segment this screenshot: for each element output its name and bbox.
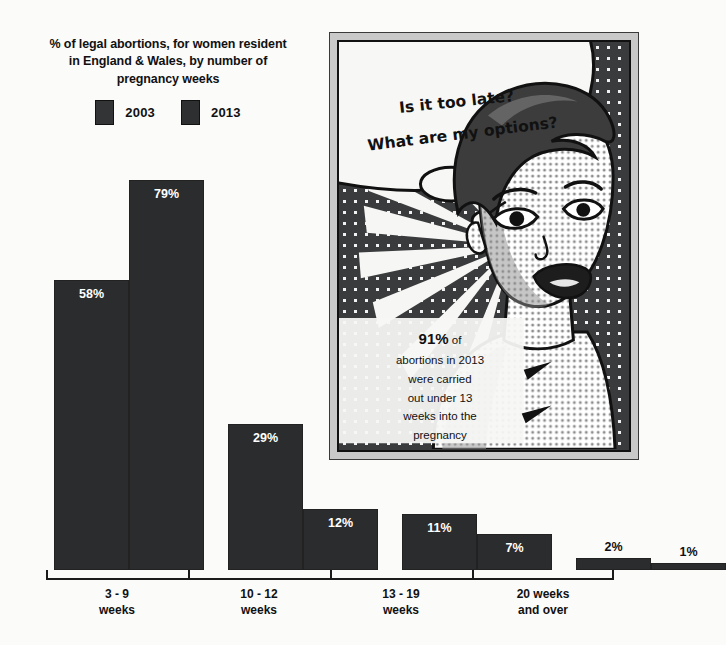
bar-value-label: 58%: [55, 287, 128, 301]
cat-line-1: 3 - 9: [46, 586, 188, 602]
illustration-panel: Is it too late? What are my options? 91%…: [329, 32, 639, 460]
bar-13-19-weeks-2013: 7%: [477, 534, 552, 570]
legend-item-2003: 2003: [95, 100, 155, 125]
bar-value-label: 2%: [577, 540, 650, 554]
bar-20-weeks-and-over-2003: 2%: [576, 558, 651, 570]
x-axis-label-10-12-weeks: 10 - 12 weeks: [188, 586, 330, 618]
bar-13-19-weeks-2003: 11%: [402, 514, 477, 570]
x-axis-tick: [330, 570, 332, 580]
cat-line-2: and over: [472, 602, 614, 618]
page-title: % of legal abortions, for women resident…: [18, 36, 318, 88]
cat-line-1: 13 - 19: [330, 586, 472, 602]
bar-value-label: 29%: [229, 431, 302, 445]
callout-text-backing: [339, 318, 524, 443]
x-axis-label-13-19-weeks: 13 - 19 weeks: [330, 586, 472, 618]
cat-line-2: weeks: [330, 602, 472, 618]
cat-line-1: 10 - 12: [188, 586, 330, 602]
legend-label-2003: 2003: [125, 105, 155, 120]
bar-10-12-weeks-2003: 29%: [228, 424, 303, 570]
pop-art-illustration: [339, 42, 629, 449]
illustration-inner-frame: Is it too late? What are my options? 91%…: [337, 40, 631, 452]
x-axis-tick: [472, 570, 474, 580]
bar-3-9-weeks-2003: 58%: [54, 280, 129, 570]
x-axis-label-3-9-weeks: 3 - 9 weeks: [46, 586, 188, 618]
legend-swatch-2003: [95, 100, 114, 125]
cat-line-2: weeks: [188, 602, 330, 618]
bar-value-label: 12%: [304, 516, 377, 530]
x-axis-label-20-weeks-and-over: 20 weeks and over: [472, 586, 614, 618]
bar-3-9-weeks-2013: 79%: [129, 180, 204, 570]
legend-item-2013: 2013: [181, 100, 241, 125]
title-line-1: % of legal abortions, for women resident: [18, 36, 318, 53]
bar-20-weeks-and-over-2013: 1%: [651, 563, 726, 570]
cat-line-2: weeks: [46, 602, 188, 618]
title-line-2: in England & Wales, by number of: [18, 53, 318, 70]
chart-legend: 2003 2013: [18, 100, 318, 125]
title-line-3: pregnancy weeks: [18, 71, 318, 88]
x-axis-tick: [46, 570, 48, 580]
bar-value-label: 11%: [403, 521, 476, 535]
x-axis-tick: [188, 570, 190, 580]
legend-label-2013: 2013: [211, 105, 241, 120]
x-axis-tick: [612, 570, 614, 580]
cat-line-1: 20 weeks: [472, 586, 614, 602]
bar-value-label: 7%: [478, 541, 551, 555]
bar-10-12-weeks-2013: 12%: [303, 509, 378, 570]
legend-swatch-2013: [181, 100, 200, 125]
bar-value-label: 79%: [130, 187, 203, 201]
bar-value-label: 1%: [652, 545, 725, 559]
woman-eye-right: [563, 200, 603, 219]
